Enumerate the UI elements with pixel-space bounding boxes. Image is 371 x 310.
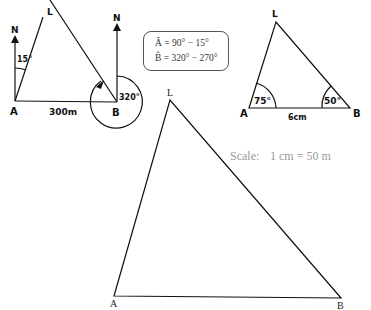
- formula-a: Â = 90° − 15°: [155, 36, 228, 51]
- formula-b: B̂ = 320° − 270°: [155, 51, 228, 66]
- tri-side-label: 6cm: [288, 113, 307, 122]
- tri-point-b-label: B: [353, 108, 361, 119]
- north-arrow-icon-a: [11, 35, 19, 43]
- north-arrow-icon-b: [113, 23, 121, 31]
- angle-a-label: 15°: [17, 55, 32, 64]
- tri-angle-b-label: 50°: [324, 96, 341, 106]
- tri-point-l-label: L: [272, 9, 278, 19]
- scale-label: Scale:: [230, 149, 259, 163]
- point-l-label: L: [47, 7, 53, 17]
- north-label-b: N: [113, 13, 121, 23]
- bearing-sketch: [15, 0, 142, 128]
- tri-point-a-label: A: [240, 108, 248, 119]
- point-b-label: B: [112, 107, 120, 118]
- scale-value: 1 cm = 50 m: [270, 149, 331, 163]
- angle-b-label: 320°: [119, 93, 140, 102]
- tri-angle-a-label: 75°: [254, 96, 271, 106]
- distance-label: 300m: [49, 107, 77, 117]
- point-a-label: A: [10, 106, 18, 117]
- scale-point-b-label: B: [337, 300, 344, 310]
- scale-triangle: [114, 100, 341, 298]
- formula-box: Â = 90° − 15° B̂ = 320° − 270°: [143, 31, 229, 71]
- north-label-a: N: [11, 25, 19, 35]
- scale-point-l-label: L: [167, 87, 173, 98]
- scale-point-a-label: A: [110, 298, 118, 309]
